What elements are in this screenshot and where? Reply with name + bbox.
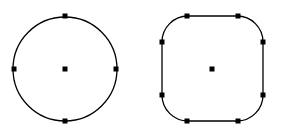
diagram-canvas [0,0,284,129]
resize-handle[interactable] [12,67,17,72]
resize-handle[interactable] [114,67,119,72]
resize-handle[interactable] [236,14,241,19]
circle-shape[interactable] [12,14,119,124]
resize-handle[interactable] [160,93,165,98]
resize-handle[interactable] [160,40,165,45]
resize-handle[interactable] [63,14,68,19]
resize-handle[interactable] [261,93,266,98]
resize-handle[interactable] [185,14,190,19]
rounded-square-center-handle[interactable] [210,67,215,72]
circle-center-handle[interactable] [63,67,68,72]
resize-handle[interactable] [63,119,68,124]
resize-handle[interactable] [185,119,190,124]
resize-handle[interactable] [236,119,241,124]
rounded-square-shape[interactable] [160,14,266,124]
resize-handle[interactable] [261,40,266,45]
